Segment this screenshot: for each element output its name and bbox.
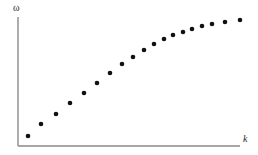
y-axis-label: ω [13,3,20,13]
data-point [68,101,73,106]
data-point [162,37,167,42]
axes [18,17,240,146]
data-point [223,20,228,25]
data-point [181,30,186,35]
data-point [210,22,215,27]
chart-figure: ω k [0,0,258,155]
data-point [131,55,136,60]
data-point [54,112,59,117]
data-point [39,122,44,127]
data-point [120,62,125,67]
data-point [108,71,113,76]
data-point [26,134,31,139]
scatter-plot [0,0,258,155]
data-point [152,42,157,47]
data-point [190,27,195,32]
x-axis-label: k [243,134,247,144]
data-points [26,18,243,139]
data-point [200,24,205,29]
data-point [171,33,176,38]
data-point [82,91,87,96]
data-point [238,18,243,23]
data-point [95,81,100,86]
data-point [142,48,147,53]
